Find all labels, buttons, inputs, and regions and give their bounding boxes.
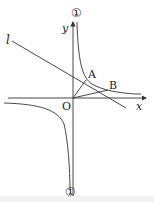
point-b-label: B [109,79,117,92]
x-axis-label: x [136,100,143,113]
curve-label-top: ① [71,6,82,20]
hyperbola-diagram: ① y l A B O x ① [0,0,154,202]
curve-label-bottom: ① [65,185,76,199]
line-label: l [6,33,10,47]
origin-label: O [62,100,71,113]
point-a-label: A [87,68,97,81]
y-axis-label: y [61,22,69,35]
curve-lower-branch [4,103,70,190]
